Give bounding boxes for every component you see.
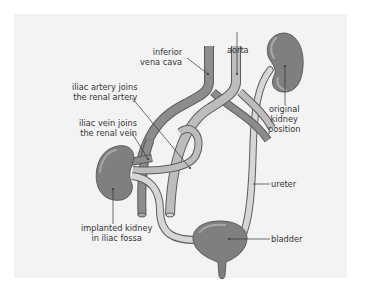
label-line: vena cava [140,57,182,67]
label-inferior-vena-cava: inferior vena cava [140,47,182,67]
implanted-kidney [96,146,134,201]
label-ureter: ureter [271,179,296,189]
label-line: kidney [268,114,300,124]
label-line: in iliac fossa [81,233,152,243]
label-line: iliac vein joins [79,118,137,128]
label-line: the renal artery [72,92,137,102]
label-iliac-vein: iliac vein joins the renal vein [79,118,137,138]
label-iliac-artery: iliac artery joins the renal artery [72,82,137,102]
label-line: inferior [140,47,182,57]
label-original-kidney: original kidney position [268,104,300,134]
label-line: position [268,124,300,134]
label-line: implanted kidney [81,223,152,233]
label-line: original [268,104,300,114]
label-bladder: bladder [271,234,302,244]
kidney-transplant-diagram [0,0,374,301]
label-aorta: aorta [227,45,249,55]
label-implanted-kidney: implanted kidney in iliac fossa [81,223,152,243]
label-line: iliac artery joins [72,82,137,92]
label-line: the renal vein [79,128,137,138]
